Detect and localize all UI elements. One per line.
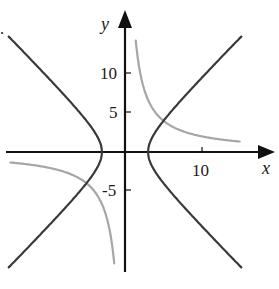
y-axis-label: y: [99, 14, 109, 34]
y-axis-arrow-icon: [118, 10, 132, 28]
x-axis-label: x: [261, 158, 270, 178]
corner-mark: .: [0, 20, 4, 37]
x-axis-arrow-icon: [258, 145, 275, 159]
y-tick-label-5: 5: [109, 103, 118, 122]
y-tick-label-10: 10: [100, 64, 117, 83]
graph: . y x 10 10 5 -5: [0, 0, 279, 289]
y-tick-label-neg5: -5: [102, 181, 116, 200]
x-tick-label-10: 10: [192, 161, 209, 180]
